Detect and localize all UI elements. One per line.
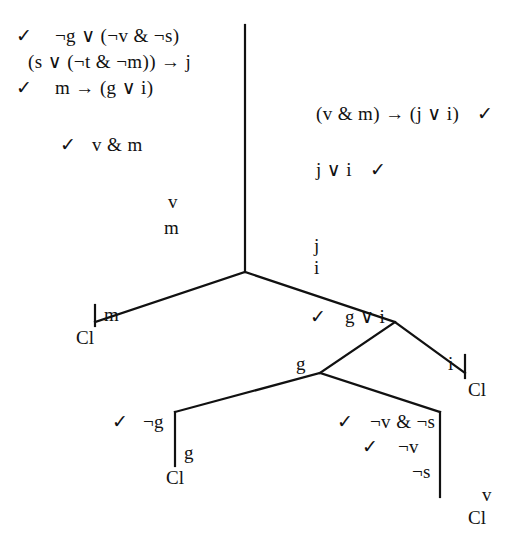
formula-premise-2: (s ∨ (¬t & ¬m)) → j bbox=[28, 52, 191, 71]
check-mark-premise-1: ✓ bbox=[16, 26, 32, 45]
check-mark-not-g: ✓ bbox=[112, 412, 128, 431]
formula-branch-i: i bbox=[448, 354, 454, 373]
formula-premise-3: m → (g ∨ i) bbox=[55, 78, 154, 97]
closed-marker-not-g-branch: Cl bbox=[166, 468, 184, 487]
fork-3-arms bbox=[175, 373, 440, 412]
fork-2-arms bbox=[320, 322, 465, 373]
formula-trunk-j: j bbox=[314, 236, 320, 255]
formula-not-s: ¬s bbox=[412, 462, 431, 481]
check-mark-right-disjunction: ✓ bbox=[370, 160, 386, 179]
check-mark-not-v-and-not-s: ✓ bbox=[337, 412, 353, 431]
formula-branch-m: m bbox=[104, 305, 119, 324]
check-mark-not-v: ✓ bbox=[362, 437, 378, 456]
formula-trunk-m: m bbox=[164, 218, 179, 237]
closed-marker-not-v-branch: Cl bbox=[468, 508, 486, 527]
closed-marker-branch-i: Cl bbox=[468, 380, 486, 399]
formula-right-conditional: (v & m) → (j ∨ i) bbox=[316, 104, 459, 123]
check-mark-premise-3: ✓ bbox=[16, 78, 32, 97]
formula-g-or-i: g ∨ i bbox=[345, 307, 385, 326]
formula-branch-v-closed: v bbox=[482, 485, 492, 504]
check-mark-right-conditional: ✓ bbox=[477, 104, 493, 123]
formula-premise-4: v & m bbox=[92, 135, 143, 154]
formula-not-g: ¬g bbox=[143, 412, 164, 431]
formula-not-v: ¬v bbox=[398, 437, 419, 456]
formula-trunk-i: i bbox=[314, 258, 320, 277]
formula-not-v-and-not-s: ¬v & ¬s bbox=[370, 412, 435, 431]
formula-right-disjunction: j ∨ i bbox=[316, 160, 352, 179]
formula-premise-1: ¬g ∨ (¬v & ¬s) bbox=[55, 26, 179, 45]
formula-trunk-v: v bbox=[168, 192, 178, 211]
closed-marker-branch-m: Cl bbox=[76, 328, 94, 347]
formula-branch-g: g bbox=[296, 354, 306, 373]
check-mark-premise-4: ✓ bbox=[60, 135, 76, 154]
formula-branch-g-closed: g bbox=[184, 443, 194, 462]
check-mark-g-or-i: ✓ bbox=[310, 307, 326, 326]
truth-tree-diagram: ✓ ¬g ∨ (¬v & ¬s) (s ∨ (¬t & ¬m)) → j ✓ m… bbox=[0, 0, 526, 534]
